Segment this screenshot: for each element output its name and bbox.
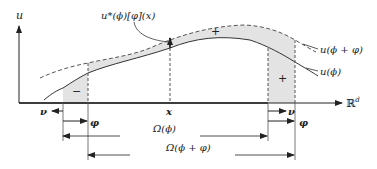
sign-minus: −	[72, 85, 81, 98]
sign-plus-middle: +	[211, 25, 220, 38]
y-axis-label: u	[16, 9, 23, 22]
derivative-leader	[134, 22, 168, 42]
leader-perturbed	[303, 44, 318, 49]
phi-right-label: φ	[299, 117, 308, 128]
diagram-canvas: u ℝd u*(ϕ)[φ](x) u(ϕ + φ) u(ϕ) x − + + ν…	[0, 0, 377, 169]
x-axis-label: ℝd	[346, 96, 360, 110]
omega-phi-label: Ω(ϕ)	[152, 123, 176, 134]
base-curve-label: u(ϕ)	[320, 66, 341, 77]
nu-right-label: ν	[288, 106, 295, 117]
derivative-label: u*(ϕ)[φ](x)	[101, 10, 155, 21]
shaded-band	[88, 25, 295, 73]
x-point-label: x	[165, 106, 173, 117]
nu-left-label: ν	[40, 106, 47, 117]
perturbed-curve-label: u(ϕ + φ)	[320, 44, 363, 55]
omega-phi-plus-label: Ω(ϕ + φ)	[165, 142, 211, 153]
sign-plus-right: +	[278, 72, 287, 85]
phi-left-label: φ	[90, 117, 99, 128]
